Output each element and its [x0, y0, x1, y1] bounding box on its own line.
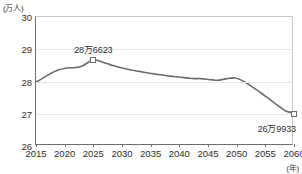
x-axis-tick-mark	[237, 144, 238, 147]
x-axis-tick-label: 2015	[25, 148, 46, 159]
value-callout-label: 26万9933	[258, 122, 296, 135]
y-axis-tick-label: 28	[21, 76, 32, 87]
x-axis-tick-label: 2025	[83, 148, 104, 159]
population-line-series	[36, 17, 292, 144]
x-axis-tick-label: 2045	[197, 148, 218, 159]
y-axis-tick-label: 29	[21, 44, 32, 55]
x-axis-tick-mark	[179, 144, 180, 147]
x-axis-tick-mark	[208, 144, 209, 147]
y-axis-tick-label: 27	[21, 108, 32, 119]
x-axis-tick-label: 2030	[111, 148, 132, 159]
plot-area: 2627282930201520202025203020352040204520…	[35, 16, 293, 145]
x-axis-tick-label: 2040	[169, 148, 190, 159]
x-axis-tick-mark	[93, 144, 94, 147]
y-axis-tick-label: 30	[21, 12, 32, 23]
x-axis-tick-mark	[65, 144, 66, 147]
population-projection-chart: (万人) 26272829302015202020252030203520402…	[0, 0, 302, 174]
x-axis-tick-mark	[36, 144, 37, 147]
gridline	[36, 82, 292, 83]
x-axis-tick-mark	[294, 144, 295, 147]
x-axis-unit-label: (年)	[286, 162, 299, 173]
data-point-marker	[291, 111, 297, 117]
x-axis-tick-label: 2055	[255, 148, 276, 159]
x-axis-tick-label: 2050	[226, 148, 247, 159]
x-axis-tick-label: 2035	[140, 148, 161, 159]
value-callout-label: 28万6623	[74, 43, 112, 56]
x-axis-tick-mark	[151, 144, 152, 147]
x-axis-tick-mark	[265, 144, 266, 147]
data-point-marker	[90, 57, 96, 63]
x-axis-tick-mark	[122, 144, 123, 147]
x-axis-tick-label: 2020	[54, 148, 75, 159]
x-axis-tick-label: 2060	[283, 148, 302, 159]
gridline	[36, 114, 292, 115]
